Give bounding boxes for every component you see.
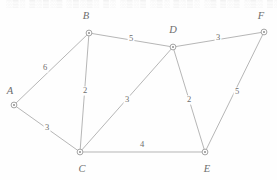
graph-node-e[interactable] [202, 149, 208, 155]
edge-weight-b-d: 5 [129, 33, 133, 43]
graph-node-b[interactable] [86, 30, 92, 36]
node-center-dot-e [204, 151, 206, 153]
graph-canvas: 632534235 ABCDEF [0, 0, 277, 180]
node-center-dot-b [88, 32, 90, 34]
node-label-c: C [78, 163, 86, 174]
node-label-f: F [257, 10, 265, 21]
edge-weight-b-c: 2 [83, 85, 87, 95]
graph-node-a[interactable] [11, 102, 17, 108]
graph-node-c[interactable] [77, 149, 83, 155]
node-center-dot-c [79, 151, 81, 153]
edges-layer [16, 33, 262, 152]
edge-weight-a-b: 6 [43, 62, 47, 72]
node-label-e: E [203, 163, 211, 174]
graph-node-f[interactable] [261, 29, 267, 35]
node-labels-layer: ABCDEF [6, 10, 265, 174]
graph-figure: ░▒░ ▒░▒░▒ ░▒░▒░ ▒░ ░▒░▒ ░▒░ ▒░▒░ ░▒ ▒░▒ … [0, 0, 277, 180]
nodes-layer [11, 29, 267, 155]
edge-weight-d-e: 2 [187, 94, 191, 104]
node-label-b: B [83, 10, 90, 21]
edge-weight-d-f: 3 [216, 32, 220, 42]
edge-weight-c-d: 3 [125, 94, 129, 104]
node-center-dot-f [263, 31, 265, 33]
graph-edge-a-b [16, 35, 87, 103]
node-label-a: A [6, 85, 14, 96]
node-center-dot-d [172, 46, 174, 48]
graph-node-d[interactable] [170, 44, 176, 50]
edge-weight-e-f: 5 [235, 86, 239, 96]
node-center-dot-a [13, 104, 15, 106]
node-label-d: D [168, 24, 177, 35]
edge-weight-a-c: 3 [45, 122, 49, 132]
